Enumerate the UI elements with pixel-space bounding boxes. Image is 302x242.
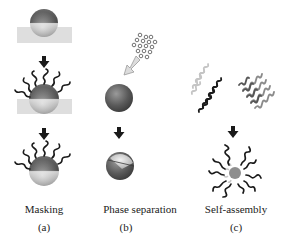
particle-on-substrate — [17, 9, 72, 43]
micelle-core — [229, 167, 241, 179]
janus-micelle — [209, 145, 261, 197]
hollow-arrow-icon — [124, 56, 140, 75]
down-arrow-icon — [39, 128, 50, 140]
panel-letter-a: (a) — [38, 221, 50, 233]
caption-phase-separation: Phase separation — [103, 203, 177, 215]
panel-letter-b: (b) — [120, 221, 133, 233]
down-arrow-icon — [114, 127, 125, 139]
monomer-droplets — [132, 33, 157, 59]
grafted-particle-on-substrate — [15, 69, 72, 114]
down-arrow-icon — [39, 56, 50, 68]
janus-particle-with-chains — [15, 141, 70, 186]
caption-masking: Masking — [25, 203, 64, 215]
phase-separated-janus-sphere — [106, 152, 134, 180]
panel-phase-separation — [105, 33, 157, 180]
panel-masking — [15, 9, 72, 186]
homogeneous-sphere — [105, 84, 133, 112]
block-copolymer-chains-light-black — [192, 64, 222, 112]
panel-letter-c: (c) — [230, 221, 242, 233]
caption-self-assembly: Self-assembly — [205, 203, 267, 215]
block-copolymer-chains-gray — [239, 74, 274, 108]
panel-self-assembly — [192, 64, 274, 197]
down-arrow-icon — [228, 126, 239, 138]
